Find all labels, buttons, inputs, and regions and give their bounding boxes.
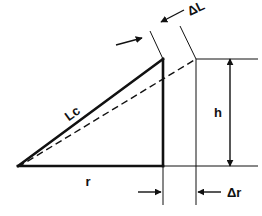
delta-length-label: ΔL [185,0,207,19]
delta-l-outer-witness-line [180,26,196,59]
delta-l-lower-arrow [116,38,142,45]
delta-l-inner-witness-line [150,31,163,59]
diagram-svg: Lc r h ΔL Δr [0,0,262,216]
height-label: h [214,105,222,120]
base-label: r [85,174,90,189]
figure-canvas: Lc r h ΔL Δr [0,0,262,216]
delta-l-upper-arrow [161,10,184,22]
reference-dashed-line [18,59,196,167]
triangle-hypotenuse [18,59,163,166]
delta-radius-label: Δr [227,185,241,200]
